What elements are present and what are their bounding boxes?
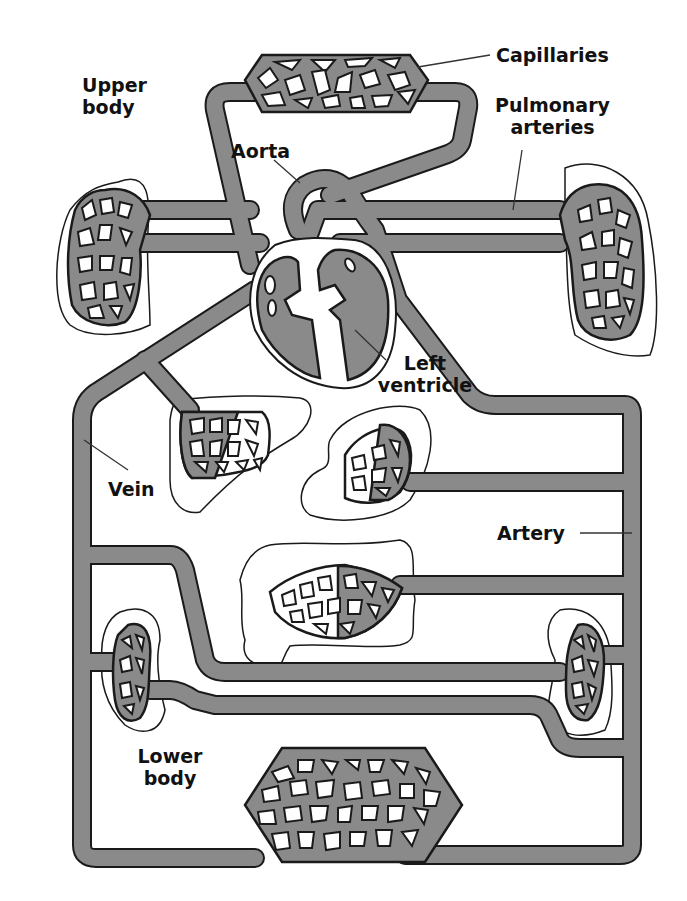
label-left-ventricle: Left ventricle bbox=[370, 352, 480, 396]
label-aorta: Aorta bbox=[231, 140, 290, 162]
capillaries-leader bbox=[418, 55, 490, 67]
label-capillaries: Capillaries bbox=[496, 44, 609, 66]
left-kidney-capillaries bbox=[113, 624, 150, 721]
left-ventricle-line2: ventricle bbox=[370, 374, 480, 396]
pulmonary-line1: Pulmonary bbox=[490, 94, 615, 116]
right-kidney-capillaries bbox=[566, 624, 604, 720]
label-vein: Vein bbox=[108, 478, 155, 500]
upper-body-line1: Upper bbox=[82, 74, 147, 96]
lower-body-line1: Lower bbox=[130, 745, 210, 767]
upper-body-capillaries bbox=[245, 55, 428, 112]
label-upper-body: Upper body bbox=[82, 74, 147, 118]
lower-body-line2: body bbox=[130, 767, 210, 789]
label-lower-body: Lower body bbox=[130, 745, 210, 789]
lower-body-capillaries bbox=[245, 748, 462, 862]
upper-body-line2: body bbox=[82, 96, 147, 118]
label-pulmonary-arteries: Pulmonary arteries bbox=[490, 94, 615, 138]
liver-capillaries bbox=[180, 412, 269, 478]
left-ventricle-line1: Left bbox=[370, 352, 480, 374]
aorta-leader bbox=[274, 160, 300, 183]
pulmonary-line2: arteries bbox=[490, 116, 615, 138]
label-artery: Artery bbox=[497, 522, 565, 544]
